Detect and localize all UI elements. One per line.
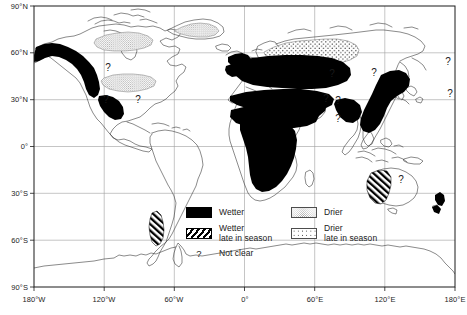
marker-not-clear-siberia-east: ? [335,113,341,124]
legend-label-drier-late: Drier late in season [324,224,377,243]
legend-entry-drier: Drier [291,207,343,218]
legend-label-wetter-late-line2: late in season [219,234,272,244]
legend-swatch-drier [291,207,317,218]
marker-not-clear-east-asia-north: ? [371,67,377,78]
x-tick-label-180w: 180°W [11,295,57,304]
marker-not-clear-east-africa: ? [323,93,329,104]
legend-entry-drier-late: Drier late in season [291,224,377,243]
legend-swatch-question-mark-icon: ? [186,248,212,259]
x-tick-label-180e: 180°E [432,295,467,304]
legend-entry-wetter-late: Wetter late in season [186,224,272,243]
figure-world-precipitation-map: ? ? ? ? ? ? ? ? ? ? ? [0,0,467,315]
y-tick-label-30s: 30°S [0,189,28,198]
x-tick-label-60w: 60°W [151,295,197,304]
marker-not-clear-north-pacific: ? [447,88,453,99]
marker-not-clear-australia: ? [398,174,404,185]
x-tick-label-120w: 120°W [81,295,127,304]
x-tick-label-120e: 120°E [362,295,408,304]
legend-label-wetter-late-line1: Wetter [219,223,244,233]
legend-entry-not-clear: ? Not clear [186,248,253,259]
y-tick-label-30n: 30°N [0,95,28,104]
x-tick-label-0: 0° [222,295,268,304]
legend-swatch-drier-late [291,228,317,239]
marker-not-clear-southeast-us: ? [135,94,141,105]
y-tick-label-90n: 90°N [0,2,28,11]
x-tick-label-60e: 60°E [292,295,338,304]
y-tick-label-60n: 60°N [0,48,28,57]
marker-not-clear-south-asia: ? [335,95,341,106]
y-tick-label-60s: 60°S [0,236,28,245]
legend-label-not-clear: Not clear [219,249,253,259]
legend-entry-wetter: Wetter [186,207,244,218]
marker-not-clear-southeast-asia: ? [445,56,451,67]
legend-label-wetter: Wetter [219,208,244,218]
y-tick-label-90s: 90°S [0,283,28,292]
legend-label-drier-late-line2: late in season [324,234,377,244]
legend-label-drier: Drier [324,208,343,218]
legend-label-drier-late-line1: Drier [324,223,343,233]
legend-swatch-wetter-late [186,228,212,239]
marker-not-clear-central-canada: ? [105,62,111,73]
y-tick-label-0: 0° [0,142,28,151]
marker-not-clear-southwest-us: ? [103,94,109,105]
legend-swatch-wetter [186,207,212,218]
legend-label-wetter-late: Wetter late in season [219,224,272,243]
marker-not-clear-central-asia: ? [329,68,335,79]
map-legend: Wetter Wetter late in season ? Not clear… [186,207,446,269]
